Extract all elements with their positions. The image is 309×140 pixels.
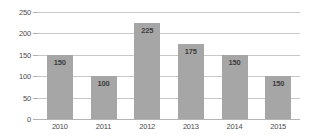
x-axis-tick-label: 2012	[139, 122, 155, 131]
x-axis-tick-label: 2010	[52, 122, 68, 131]
y-axis-tick-label: 0	[27, 115, 31, 124]
x-axis-tick-label: 2013	[183, 122, 199, 131]
y-axis: 050100150200250	[0, 12, 31, 119]
y-axis-tick-label: 200	[19, 29, 31, 38]
bar-value-label: 150	[54, 58, 66, 67]
bar-value-label: 175	[185, 47, 197, 56]
bar[interactable]: 150	[265, 76, 291, 119]
bar[interactable]: 175	[178, 44, 204, 119]
bar-chart: 050100150200250 150100225175150150 20102…	[0, 0, 309, 140]
bar[interactable]: 225	[134, 23, 160, 119]
bar-value-label: 225	[141, 26, 153, 35]
y-axis-tick	[33, 119, 38, 120]
x-axis: 201020112012201320142015	[38, 122, 300, 136]
y-axis-tick-label: 100	[19, 72, 31, 81]
bar-value-label: 100	[98, 79, 110, 88]
y-axis-tick-label: 150	[19, 50, 31, 59]
gridline	[38, 119, 300, 120]
bar[interactable]: 100	[91, 76, 117, 119]
y-axis-tick-label: 250	[19, 8, 31, 17]
bar-series: 150100225175150150	[38, 12, 300, 119]
bar-value-label: 150	[272, 79, 284, 88]
bar[interactable]: 150	[222, 55, 248, 119]
x-axis-tick-label: 2015	[270, 122, 286, 131]
bar[interactable]: 150	[47, 55, 73, 119]
y-axis-tick-label: 50	[23, 93, 31, 102]
x-axis-tick-label: 2014	[227, 122, 243, 131]
bar-value-label: 150	[229, 58, 241, 67]
plot-area: 150100225175150150	[38, 12, 300, 119]
x-axis-tick-label: 2011	[96, 122, 111, 131]
